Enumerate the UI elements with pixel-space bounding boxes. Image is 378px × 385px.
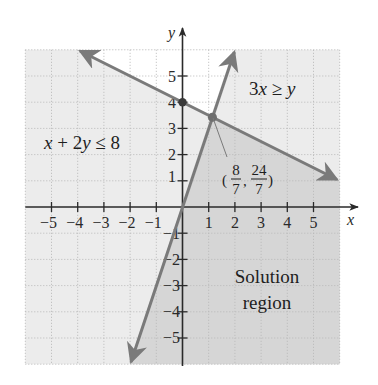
inequality-label-1: x + 2y ≤ 8: [43, 132, 120, 153]
x-tick-label: −3: [92, 214, 109, 231]
solution-region-label-line2: region: [243, 292, 292, 313]
x-tick-label: 1: [205, 214, 213, 231]
x-tick-label: 5: [310, 214, 318, 231]
comma: ,: [243, 173, 247, 189]
x-tick-label: 3: [257, 214, 265, 231]
x-tick-label: 4: [283, 214, 291, 231]
close-paren: ): [268, 172, 273, 189]
y-denominator: 7: [255, 181, 263, 197]
intersection-point: [208, 113, 217, 122]
open-paren: (: [222, 172, 227, 189]
x-tick-label: −5: [40, 214, 57, 231]
inequality-label-2: 3x ≥ y: [249, 78, 296, 99]
y-tick-label: −4: [163, 303, 180, 320]
x-tick-label: −2: [119, 214, 136, 231]
x-axis-label: x: [346, 211, 354, 228]
y-tick-label: −5: [163, 329, 180, 346]
x-tick-label: −4: [66, 214, 83, 231]
y-tick-label: 5: [168, 68, 176, 85]
x-numerator: 8: [232, 162, 240, 178]
y-tick-label: 1: [168, 168, 176, 185]
x-tick-label: 2: [231, 214, 239, 231]
y-axis-label: y: [166, 24, 176, 42]
y-tick-label: −3: [163, 277, 180, 294]
y-tick-label: 3: [168, 120, 176, 137]
y-tick-label: 2: [168, 146, 176, 163]
inequality-graph: −5 −4 −3 −2 −1 1 2 3 4 5 1 2 3 4 5 −1 −2…: [0, 0, 378, 385]
x-tick-label: −1: [145, 214, 162, 231]
solution-region-label-line1: Solution: [235, 266, 300, 287]
y-intercept-point: [178, 98, 186, 106]
x-denominator: 7: [232, 181, 240, 197]
y-numerator: 24: [252, 162, 268, 178]
